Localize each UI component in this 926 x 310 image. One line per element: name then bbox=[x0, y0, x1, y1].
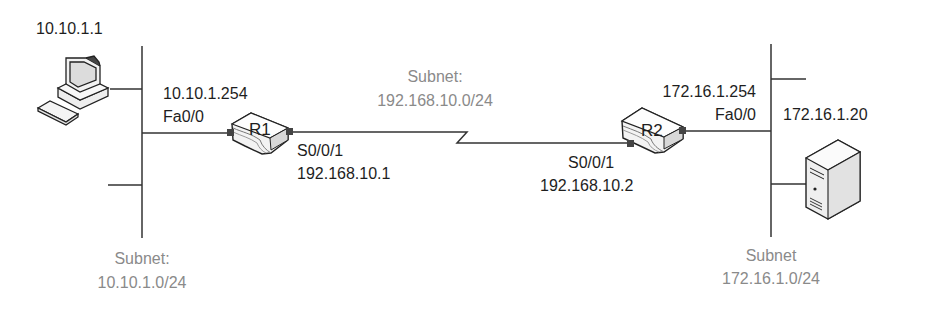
wan-subnet-cidr: 192.168.10.0/24 bbox=[367, 92, 503, 110]
r1-fa-iface-label: Fa0/0 bbox=[163, 108, 204, 126]
pc-ip-label: 10.10.1.1 bbox=[36, 20, 103, 38]
server-ip-label: 172.16.1.20 bbox=[783, 106, 868, 124]
r1-fa-ip-label: 10.10.1.254 bbox=[163, 85, 248, 103]
wan-subnet-label: Subnet: bbox=[375, 68, 495, 86]
r2-fa-ip-label: 172.16.1.254 bbox=[620, 83, 756, 101]
server-icon[interactable] bbox=[806, 140, 860, 219]
r1-name-label: R1 bbox=[249, 121, 271, 139]
desktop-pc-icon[interactable] bbox=[38, 56, 108, 125]
right-subnet-label: Subnet bbox=[711, 247, 831, 265]
left-lan-segment bbox=[108, 46, 232, 238]
r1-serial-iface-label: S0/0/1 bbox=[297, 142, 343, 160]
r2-serial-iface-label: S0/0/1 bbox=[568, 154, 614, 172]
right-subnet-cidr: 172.16.1.0/24 bbox=[701, 270, 841, 288]
left-subnet-cidr: 10.10.1.0/24 bbox=[72, 274, 212, 292]
right-lan-segment bbox=[683, 44, 806, 237]
r2-name-label: R2 bbox=[641, 122, 663, 140]
r1-serial-ip-label: 192.168.10.1 bbox=[297, 165, 390, 183]
r2-serial-ip-label: 192.168.10.2 bbox=[540, 177, 633, 195]
left-subnet-label: Subnet: bbox=[82, 250, 202, 268]
